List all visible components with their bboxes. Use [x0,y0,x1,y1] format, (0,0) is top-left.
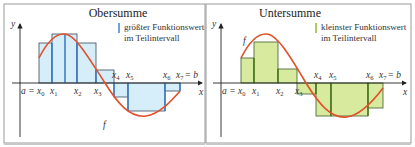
legend-line2: im Teilintervall [124,33,180,43]
panel-untersumme: Untersumme kleinster Funktionswert im Te… [206,4,411,144]
riemann-sums-diagram: Obersumme größter Funktionswert im Teili… [0,0,415,147]
panel-obersumme: Obersumme größter Funktionswert im Teili… [4,4,205,144]
legend-line1: kleinster Funktionswert [321,22,407,32]
x-axis-label: x [198,87,204,97]
svg-text:a = x0: a = x0 [21,86,44,97]
panel-title: Untersumme [259,6,321,20]
svg-text:x7= b: x7= b [378,70,401,81]
y-axis-label: y [10,19,16,29]
svg-text:a = x0: a = x0 [222,86,245,97]
y-axis-label: y [211,19,217,29]
x-axis-label: x [402,87,408,97]
panel-title: Obersumme [89,6,148,20]
svg-text:x7= b: x7= b [175,70,198,81]
legend-line2: im Teilintervall [321,33,377,43]
legend-line1: größter Funktionswert [124,22,205,32]
